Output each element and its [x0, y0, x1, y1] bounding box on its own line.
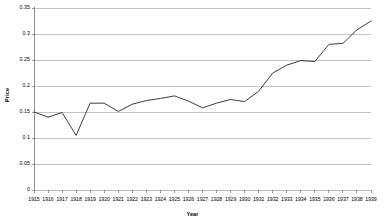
- y-tick-label-text: 0.3: [8, 31, 30, 36]
- line-chart: 00.050.10.150.20.250.30.35 1915191619171…: [0, 0, 385, 224]
- y-tick-label-text: 0.05: [8, 161, 30, 166]
- y-tick-label: 0.15: [8, 109, 30, 115]
- y-tick-label-text: 0.2: [8, 83, 30, 88]
- x-tick-label: 1939: [358, 196, 384, 203]
- y-axis-title: Price: [4, 75, 10, 115]
- y-tick-label: 0.25: [8, 57, 30, 63]
- y-tick-label-text: 0: [8, 187, 30, 192]
- y-tick-label-text: 0.15: [8, 109, 30, 114]
- chart-plot-area: [0, 0, 385, 224]
- y-tick-label: 0.05: [8, 161, 30, 167]
- data-line-price: [34, 21, 371, 135]
- y-tick-label-text: 0.25: [8, 57, 30, 62]
- y-tick-label-text: 0.35: [8, 5, 30, 10]
- y-tick-label: 0.1: [8, 135, 30, 141]
- y-tick-label-text: 0.1: [8, 135, 30, 140]
- y-tick-label: 0: [8, 187, 30, 193]
- x-tick-label-text: 1939: [358, 196, 384, 202]
- x-axis-title: Year: [0, 211, 385, 217]
- y-tick-label: 0.2: [8, 83, 30, 89]
- y-tick-label: 0.35: [8, 5, 30, 11]
- y-tick-label: 0.3: [8, 31, 30, 37]
